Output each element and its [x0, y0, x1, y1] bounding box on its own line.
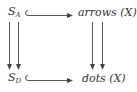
- diagram-arrows: [0, 0, 137, 92]
- double-arrow-left: [10, 22, 19, 69]
- double-arrow-right: [93, 22, 103, 69]
- hook-arrow-bottom: [26, 76, 73, 81]
- hook-arrow-top: [26, 11, 73, 16]
